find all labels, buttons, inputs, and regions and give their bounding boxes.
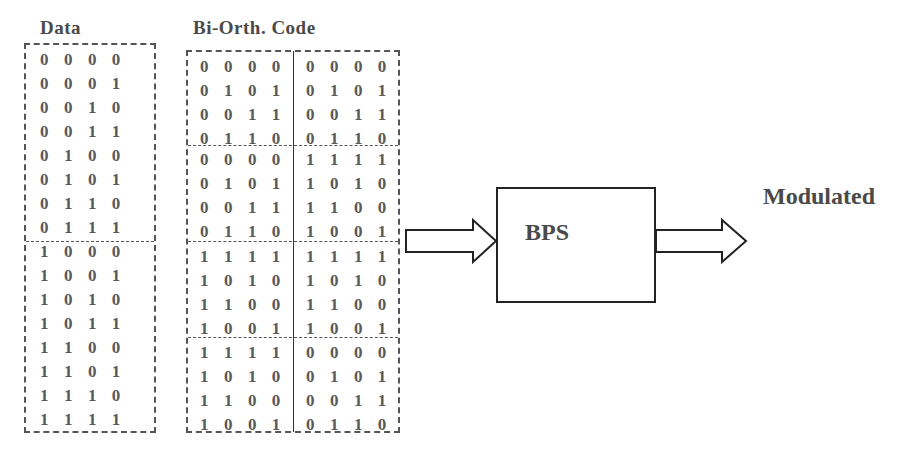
output-label: Modulated: [763, 180, 893, 238]
